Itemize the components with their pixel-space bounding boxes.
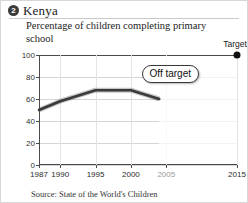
x-axis-tick-mark (60, 165, 61, 168)
x-axis-tick-mark (96, 165, 97, 168)
y-axis-tick-label: 40 (26, 117, 35, 126)
x-axis-tick-label: 1990 (51, 170, 69, 179)
x-axis-tick-mark (39, 165, 40, 168)
y-axis-tick-label: 60 (26, 95, 35, 104)
country-progress-card: 2 Kenya Percentage of children completin… (0, 0, 248, 203)
x-axis-tick-label: 2015 (228, 170, 246, 179)
y-axis-tick-label: 20 (26, 139, 35, 148)
y-axis-tick-label: 0 (31, 161, 35, 170)
source-note: Source: State of the World's Children (31, 189, 158, 199)
header-divider (9, 18, 239, 19)
y-axis-tick-label: 80 (26, 73, 35, 82)
page-title: Kenya (23, 3, 58, 19)
gridline (40, 165, 237, 166)
x-axis-tick-mark (166, 165, 167, 168)
x-axis-tick-label: 1987 (30, 170, 48, 179)
target-point-dot (234, 52, 241, 59)
x-axis-tick-label: 2005 (157, 170, 175, 179)
chart-plot-area: 020406080100 198719901995200020052015 Ta… (39, 55, 237, 165)
status-badge: Off target (142, 65, 200, 83)
y-axis-tick-label: 100 (22, 51, 35, 60)
target-label: Target (223, 39, 247, 49)
vertical-gridline (237, 55, 238, 165)
x-axis-tick-mark (237, 165, 238, 168)
x-axis-tick-label: 2000 (122, 170, 140, 179)
chart-subtitle: Percentage of children completing primar… (26, 20, 211, 45)
data-series-line (39, 55, 237, 165)
x-axis-tick-label: 1995 (87, 170, 105, 179)
rank-badge: 2 (8, 5, 19, 16)
card-header: 2 Kenya (8, 3, 240, 18)
x-axis-tick-mark (131, 165, 132, 168)
